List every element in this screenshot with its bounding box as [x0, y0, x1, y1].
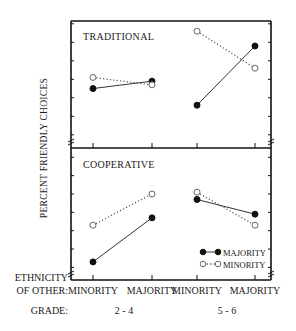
minority-point	[149, 191, 155, 197]
legend-item-minority: MINORITY	[200, 260, 265, 270]
majority-line	[93, 218, 152, 262]
majority-line	[93, 81, 152, 88]
open-circle-icon	[200, 261, 206, 267]
minority-point	[90, 222, 96, 228]
filled-circle-icon	[200, 249, 206, 255]
traditional-panel: TRADITIONAL	[68, 21, 274, 148]
grade-group-label: 2 - 4	[115, 305, 133, 316]
minority-point	[194, 28, 200, 34]
ethnicity-label: ETHNICITY	[15, 272, 68, 283]
panel-title: TRADITIONAL	[83, 31, 154, 42]
chart-figure: TRADITIONAL COOPERATIVE MAJORITYMINORITY…	[0, 0, 296, 331]
x-category-label: MAJORITY	[127, 285, 178, 296]
minority-line	[197, 31, 255, 68]
y-axis-label: PERCENT FRIENDLY CHOICES	[39, 78, 49, 218]
legend-item-majority: MAJORITY	[200, 248, 266, 258]
legend-label: MINORITY	[223, 260, 266, 270]
majority-point	[194, 196, 200, 202]
majority-point	[194, 102, 200, 108]
majority-point	[149, 215, 155, 221]
of-other-label: OF OTHER:	[17, 285, 68, 296]
panel-title: COOPERATIVE	[83, 159, 155, 170]
x-category-label: MINORITY	[172, 285, 222, 296]
open-circle-icon	[215, 261, 221, 267]
majority-point	[252, 43, 258, 49]
grade-label: GRADE:	[31, 305, 68, 316]
x-category-label: MAJORITY	[230, 285, 281, 296]
minority-point	[252, 222, 258, 228]
grade-group-label: 5 - 6	[218, 305, 236, 316]
minority-line	[197, 192, 255, 225]
legend-label: MAJORITY	[223, 248, 266, 258]
filled-circle-icon	[215, 249, 221, 255]
minority-line	[93, 77, 152, 84]
legend: MAJORITYMINORITY	[200, 248, 266, 270]
minority-point	[252, 65, 258, 71]
majority-line	[197, 199, 255, 214]
minority-point	[90, 74, 96, 80]
minority-line	[93, 194, 152, 225]
majority-point	[252, 211, 258, 217]
majority-line	[197, 46, 255, 105]
minority-point	[149, 82, 155, 88]
majority-point	[90, 259, 96, 265]
minority-point	[194, 189, 200, 195]
majority-point	[90, 86, 96, 92]
x-category-label: MINORITY	[68, 285, 118, 296]
